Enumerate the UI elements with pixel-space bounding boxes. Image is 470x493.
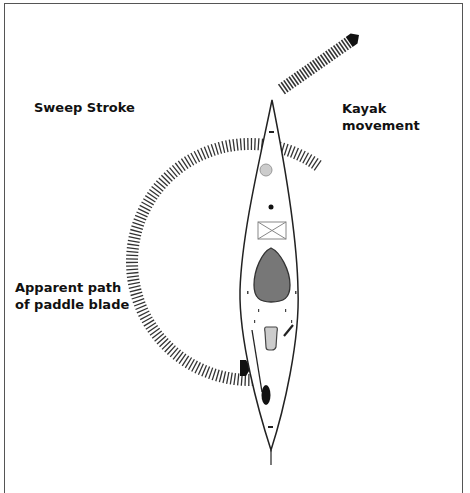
bow-mark	[269, 131, 274, 133]
label-apparent-path: Apparent path of paddle blade	[15, 279, 129, 313]
stern-mark	[268, 426, 273, 428]
kayak	[240, 100, 298, 465]
movement-arrow-hatch	[279, 38, 351, 94]
rear-hatch	[265, 327, 278, 350]
label-kayak-movement: Kayak movement	[342, 100, 420, 134]
paddle-blade	[262, 385, 271, 405]
deck-fitting	[269, 205, 274, 210]
title-sweep-stroke: Sweep Stroke	[34, 99, 135, 116]
front-hatch	[260, 164, 272, 176]
kayak-movement-arrow	[279, 30, 363, 94]
